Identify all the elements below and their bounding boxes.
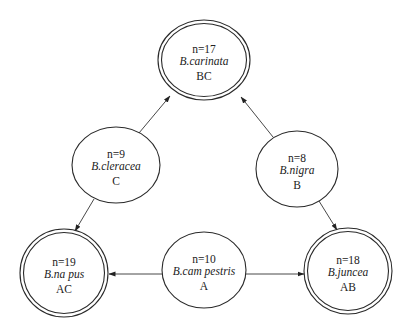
chromosome-count: n=18 [336,254,360,266]
species-name: B.na pus [44,268,85,281]
chromosome-count: n=9 [107,148,125,160]
arrow-b-to-ab [319,201,337,230]
species-name: B.nigra [280,164,315,177]
species-name: B.cam pestris [173,265,236,278]
chromosome-count: n=19 [52,256,76,268]
node-ab: n=18B.junceaAB [304,228,392,314]
chromosome-count: n=10 [192,253,216,265]
arrow-c-to-ac [75,199,94,231]
brassica-triangle-diagram: n=17B.carinataBCn=9B.cleraceaCn=8B.nigra… [0,0,411,335]
species-name: B.carinata [180,55,229,67]
genome-label: AC [56,283,72,295]
node-c: n=9B.cleraceaC [72,127,160,203]
node-a: n=10B.cam pestrisA [162,232,246,308]
arrow-c-to-bc [139,96,170,133]
genome-label: BC [196,70,212,82]
genome-label: C [112,175,120,187]
chromosome-count: n=8 [288,152,306,164]
species-name: B.cleracea [91,160,141,172]
node-bc: n=17B.carinataBC [158,20,250,100]
genome-label: A [200,280,209,292]
chromosome-count: n=17 [192,43,216,55]
genome-label: B [293,179,301,191]
arrow-b-to-bc [241,97,273,137]
node-ac: n=19B.na pusAC [20,229,108,317]
nodes-layer: n=17B.carinataBCn=9B.cleraceaCn=8B.nigra… [20,20,392,317]
node-b: n=8B.nigraB [256,131,338,207]
genome-label: AB [340,281,356,293]
species-name: B.juncea [328,266,369,279]
